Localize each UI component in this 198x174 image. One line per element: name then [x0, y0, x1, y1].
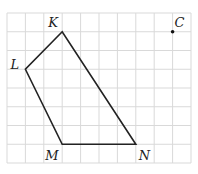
grid-figure: K L M N C	[0, 0, 198, 174]
label-m: M	[44, 148, 59, 163]
label-n: N	[138, 148, 151, 163]
label-c: C	[175, 15, 185, 30]
point-c	[171, 30, 175, 34]
label-k: K	[47, 15, 59, 30]
label-l: L	[9, 57, 19, 72]
